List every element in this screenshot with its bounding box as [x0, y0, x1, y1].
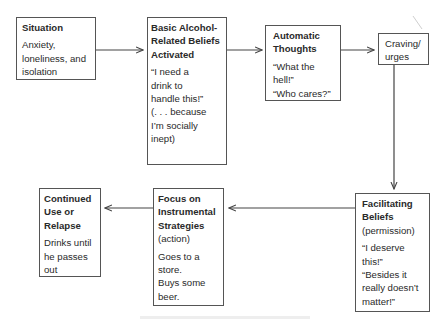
node-basic-beliefs: Basic Alcohol-Related Beliefs Activated … — [147, 17, 227, 165]
node-body: “What the hell!” “Who cares?” — [273, 60, 338, 100]
body-line: (. . . because — [151, 105, 224, 118]
body-line: “Besides it — [362, 268, 427, 281]
body-line: he passes — [44, 250, 98, 263]
node-situation: Situation Anxiety, loneliness, and isola… — [16, 17, 96, 80]
node-body: “I need a drink to handle this!” (. . . … — [151, 65, 224, 145]
body-line: “Who cares?” — [273, 87, 338, 100]
body-line: I’m socially — [151, 119, 224, 132]
body-line: hell!” — [273, 73, 338, 86]
body-line: drink to — [151, 79, 224, 92]
node-body: “I deserve this!” “Besides it really doe… — [362, 241, 427, 308]
node-body: Anxiety, loneliness, and isolation — [22, 38, 90, 78]
body-line: this!” — [362, 255, 427, 268]
body-line: handle this!” — [151, 92, 224, 105]
faint-caption-smudge — [140, 316, 310, 319]
body-line: isolation — [22, 65, 90, 78]
node-title: Automatic Thoughts — [273, 29, 338, 56]
body-line: store. — [158, 263, 222, 276]
node-body: Drinks until he passes out — [44, 236, 98, 276]
body-line: inept) — [151, 132, 224, 145]
body-line: “I deserve — [362, 241, 427, 254]
node-automatic-thoughts: Automatic Thoughts “What the hell!” “Who… — [265, 25, 341, 101]
node-title: Continued Use or Relapse — [44, 192, 98, 232]
body-line: Drinks until — [44, 236, 98, 249]
body-line: matter!” — [362, 295, 427, 308]
body-line: “I need a — [151, 65, 224, 78]
node-craving: Craving/ urges — [378, 33, 429, 65]
body-line: Goes to a — [158, 250, 222, 263]
node-title: Craving/ urges — [385, 37, 423, 64]
body-line: Buys some — [158, 276, 222, 289]
stray-mark — [413, 16, 422, 29]
body-line: Anxiety, — [22, 38, 90, 51]
node-subtitle: (action) — [158, 232, 222, 245]
node-continued-use: Continued Use or Relapse Drinks until he… — [39, 188, 101, 277]
body-line: really doesn’t — [362, 281, 427, 294]
node-title: Facilitating Beliefs — [362, 197, 427, 224]
node-title: Focus on Instrumental Strategies — [158, 192, 222, 232]
body-line: out — [44, 263, 98, 276]
node-title: Basic Alcohol-Related Beliefs Activated — [151, 21, 224, 61]
node-facilitating-beliefs: Facilitating Beliefs (permission) “I des… — [355, 193, 430, 312]
body-line: beer. — [158, 290, 222, 303]
body-line: “What the — [273, 60, 338, 73]
node-title: Situation — [22, 21, 90, 34]
body-line: loneliness, and — [22, 52, 90, 65]
node-instrumental-strategies: Focus on Instrumental Strategies (action… — [153, 188, 224, 306]
node-subtitle: (permission) — [362, 224, 427, 237]
node-body: Goes to a store. Buys some beer. — [158, 250, 222, 304]
